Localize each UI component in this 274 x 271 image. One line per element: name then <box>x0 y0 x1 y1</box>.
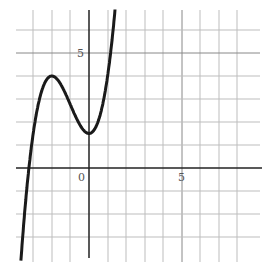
graph: 0 5 5 <box>0 0 274 271</box>
function-curve <box>21 10 115 261</box>
y-tick-5: 5 <box>77 47 84 60</box>
grid <box>16 10 260 262</box>
x-tick-5: 5 <box>178 171 185 184</box>
origin-label: 0 <box>78 171 85 184</box>
